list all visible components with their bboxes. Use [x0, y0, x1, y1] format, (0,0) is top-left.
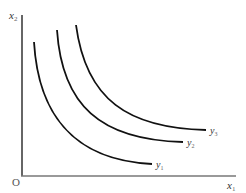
diagram-canvas: x2 x1 O y1 y2 y3 [0, 0, 246, 193]
curve-label-y3: y3 [209, 125, 217, 137]
curve-label-y2: y2 [186, 137, 194, 149]
y-axis-label: x2 [8, 9, 18, 23]
curve-y1 [34, 42, 152, 164]
curve-y3 [76, 25, 206, 130]
origin-label: O [12, 176, 20, 188]
x-axis-label: x1 [226, 179, 236, 193]
curve-label-y1: y1 [155, 159, 163, 171]
